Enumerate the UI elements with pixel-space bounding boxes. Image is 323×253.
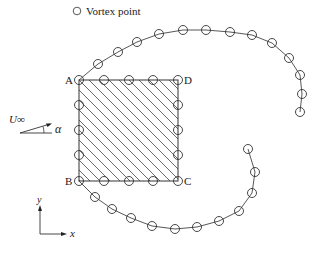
legend-vortex-marker-icon — [73, 7, 81, 15]
hatch-line — [119, 80, 229, 190]
vortex-shedding-diagram: Vortex point A D B C U∞ α y x — [0, 0, 323, 253]
hatch-line — [59, 80, 169, 190]
hatch-line — [49, 80, 159, 190]
hatch-pattern — [0, 80, 299, 190]
freestream-arrow-shaft — [20, 124, 50, 133]
corner-label-c: C — [184, 175, 191, 187]
freestream-arrowhead-icon — [46, 124, 52, 128]
hatch-line — [109, 80, 219, 190]
hatch-line — [139, 80, 249, 190]
hatch-line — [0, 80, 79, 190]
hatch-line — [29, 80, 139, 190]
upper-wake-curve — [79, 30, 302, 112]
hatch-line — [189, 80, 299, 190]
hatch-line — [89, 80, 199, 190]
hatch-line — [79, 80, 189, 190]
corner-label-d: D — [184, 74, 192, 86]
hatch-line — [69, 80, 179, 190]
square-body — [0, 80, 299, 190]
hatch-line — [159, 80, 269, 190]
hatch-line — [129, 80, 239, 190]
angle-label: α — [55, 122, 62, 136]
angle-arc — [43, 127, 44, 134]
lower-wake-curve — [79, 149, 255, 229]
freestream-indicator: U∞ α — [9, 113, 62, 136]
hatch-line — [99, 80, 209, 190]
freestream-velocity-label: U∞ — [9, 113, 25, 125]
corner-label-b: B — [65, 175, 72, 187]
hatch-line — [19, 80, 129, 190]
hatch-line — [9, 80, 119, 190]
legend: Vortex point — [73, 5, 140, 17]
y-axis-label: y — [36, 194, 42, 205]
corner-label-a: A — [65, 74, 73, 86]
hatch-line — [169, 80, 279, 190]
legend-label: Vortex point — [86, 5, 141, 17]
coordinate-axes: y x — [36, 194, 75, 239]
hatch-line — [0, 80, 89, 190]
y-axis-arrowhead-icon — [38, 205, 42, 211]
x-axis-arrowhead-icon — [61, 232, 67, 236]
x-axis-label: x — [69, 227, 75, 239]
hatch-line — [179, 80, 289, 190]
hatch-line — [149, 80, 259, 190]
